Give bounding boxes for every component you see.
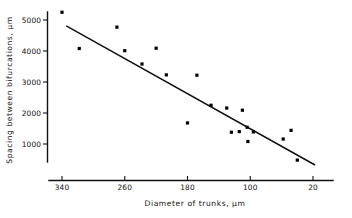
x-tick-label: 20 <box>308 183 318 192</box>
data-point <box>60 11 63 14</box>
data-point <box>246 126 249 129</box>
y-axis-ticks: 10002000300040005000 <box>22 16 48 149</box>
data-point <box>140 62 143 65</box>
data-point <box>252 130 255 133</box>
scatter-plot: 10002000300040005000 34026018010020 Diam… <box>0 0 352 218</box>
data-point <box>195 74 198 77</box>
data-point <box>296 159 299 162</box>
y-axis-title: Spacing between bifurcations, µm <box>5 16 14 163</box>
data-point <box>123 49 126 52</box>
trend-line-group <box>67 26 315 165</box>
data-point <box>165 73 168 76</box>
y-tick-label: 2000 <box>22 109 41 118</box>
data-point <box>230 131 233 134</box>
y-tick-label: 3000 <box>22 78 41 87</box>
data-point <box>115 26 118 29</box>
data-point <box>78 47 81 50</box>
data-point <box>155 47 158 50</box>
x-axis-ticks: 34026018010020 <box>55 176 318 192</box>
data-point <box>225 106 228 109</box>
chart-figure: 10002000300040005000 34026018010020 Diam… <box>0 0 352 218</box>
x-axis-title: Diameter of trunks, µm <box>145 199 246 208</box>
y-tick-label: 1000 <box>22 140 41 149</box>
x-tick-label: 260 <box>118 183 133 192</box>
regression-trend-line <box>67 26 315 165</box>
y-tick-label: 5000 <box>22 16 41 25</box>
data-point <box>186 121 189 124</box>
x-tick-label: 100 <box>243 183 258 192</box>
data-point <box>282 137 285 140</box>
data-point <box>246 140 249 143</box>
y-tick-label: 4000 <box>22 47 41 56</box>
data-point <box>289 129 292 132</box>
data-point <box>241 109 244 112</box>
data-points-group <box>60 11 299 162</box>
data-point <box>238 130 241 133</box>
data-point <box>209 104 212 107</box>
x-tick-label: 180 <box>180 183 195 192</box>
x-tick-label: 340 <box>55 183 70 192</box>
